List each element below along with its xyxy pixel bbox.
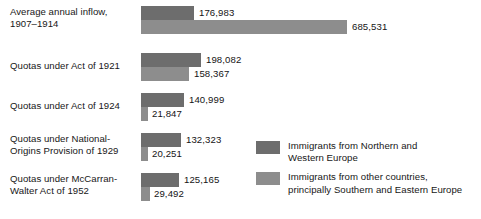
bar-value-label: 685,531 (352, 20, 387, 34)
bar-northern-western (141, 133, 181, 147)
bar-value-label: 176,983 (199, 6, 234, 20)
bar-northern-western (141, 6, 194, 20)
category-label: Quotas under National- Origins Provision… (10, 133, 138, 158)
bar-northern-western (141, 173, 179, 187)
bar-value-label: 158,367 (194, 67, 229, 81)
chart-row: Quotas under Act of 1921 198,082 158,367 (0, 50, 481, 88)
chart-legend: Immigrants from Northern and Western Eur… (256, 140, 481, 203)
bar-value-label: 132,323 (186, 133, 221, 147)
legend-label: Immigrants from Northern and Western Eur… (288, 140, 481, 164)
legend-swatch-icon (256, 172, 280, 185)
legend-label: Immigrants from other countries, princip… (288, 171, 481, 195)
category-label: Quotas under Act of 1921 (10, 60, 138, 72)
bar-other-countries (141, 67, 189, 81)
bar-other-countries (141, 107, 148, 121)
grouped-bar-chart: Average annual inflow, 1907–1914 176,983… (0, 0, 481, 219)
bar-value-label: 140,999 (189, 93, 224, 107)
bar-northern-western (141, 93, 184, 107)
chart-row: Quotas under Act of 1924 140,999 21,847 (0, 90, 481, 128)
bar-other-countries (141, 187, 150, 201)
chart-row: Average annual inflow, 1907–1914 176,983… (0, 0, 481, 38)
bar-value-label: 21,847 (152, 107, 182, 121)
bar-value-label: 198,082 (206, 53, 241, 67)
bar-value-label: 20,251 (152, 147, 182, 161)
category-label: Average annual inflow, 1907–1914 (10, 6, 138, 31)
bar-other-countries (141, 20, 347, 34)
bar-other-countries (141, 147, 148, 161)
bar-value-label: 29,492 (154, 187, 184, 201)
legend-entry: Immigrants from Northern and Western Eur… (256, 140, 481, 164)
category-label: Quotas under McCarran- Walter Act of 195… (10, 173, 138, 198)
category-label: Quotas under Act of 1924 (10, 100, 138, 112)
bar-value-label: 125,165 (184, 173, 219, 187)
legend-entry: Immigrants from other countries, princip… (256, 171, 481, 195)
bar-northern-western (141, 53, 201, 67)
legend-swatch-icon (256, 141, 280, 154)
